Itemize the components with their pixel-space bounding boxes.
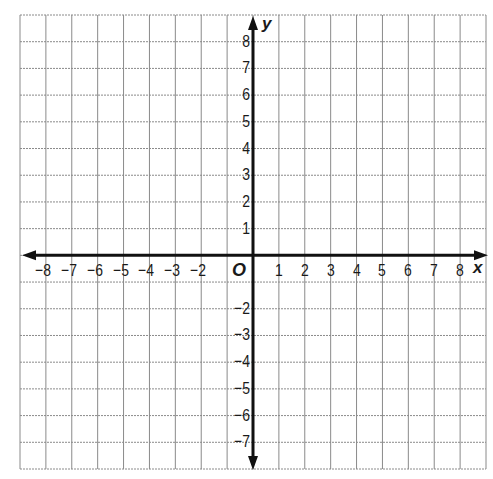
x-tick-label: −4: [138, 262, 154, 279]
y-tick-label: 5: [242, 113, 250, 130]
x-tick-label: −6: [87, 262, 103, 279]
x-tick-label: −7: [61, 262, 77, 279]
y-tick-label: 1: [242, 220, 250, 237]
x-tick-label: 5: [379, 262, 387, 279]
y-tick-label: 8: [242, 33, 250, 50]
y-tick-label: −2: [234, 300, 250, 317]
y-axis-up-arrow-icon: [248, 16, 258, 30]
x-tick-label: 1: [275, 262, 283, 279]
y-axis-label: y: [262, 15, 271, 32]
x-tick-label: 4: [353, 262, 361, 279]
y-axis-down-arrow-icon: [248, 456, 258, 470]
x-axis-label: x: [473, 259, 482, 276]
x-tick-label: −5: [113, 262, 129, 279]
y-tick-label: 4: [242, 140, 250, 157]
axes: [22, 16, 488, 470]
y-tick-label: 3: [242, 166, 250, 183]
y-tick-label: −4: [234, 353, 250, 370]
x-tick-label: 6: [404, 262, 412, 279]
x-tick-label: −3: [164, 262, 180, 279]
x-tick-label: 8: [456, 262, 464, 279]
y-tick-label: 6: [242, 86, 250, 103]
x-tick-label: 2: [301, 262, 309, 279]
x-tick-label: 3: [327, 262, 335, 279]
origin-label: O: [232, 261, 246, 279]
x-tick-label: −2: [190, 262, 206, 279]
y-tick-label: −6: [234, 407, 250, 424]
y-tick-label: 2: [242, 193, 250, 210]
x-tick-label: 7: [430, 262, 438, 279]
y-tick-label: −5: [234, 380, 250, 397]
x-tick-label: −8: [35, 262, 51, 279]
y-tick-label: −3: [234, 326, 250, 343]
y-tick-label: 7: [242, 59, 250, 76]
x-axis-left-arrow-icon: [22, 250, 36, 260]
y-tick-label: −7: [234, 433, 250, 450]
